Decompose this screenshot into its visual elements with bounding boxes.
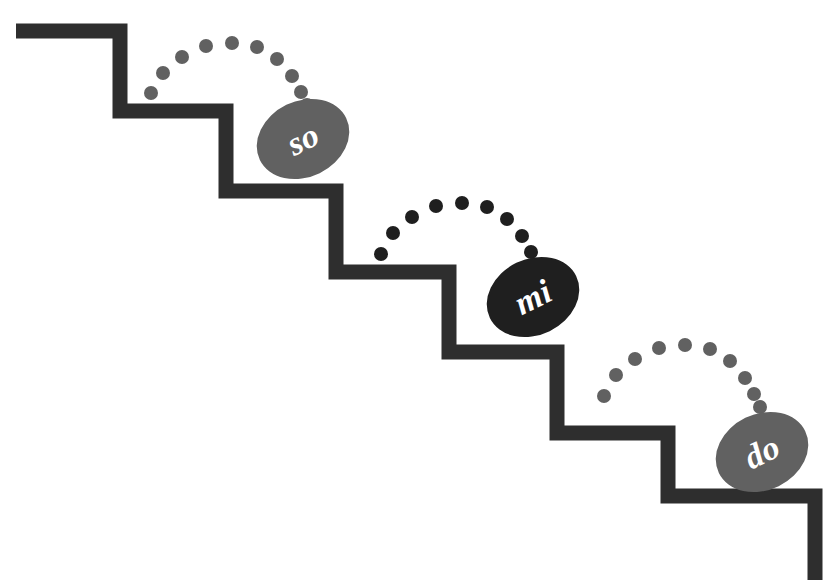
arc-dot <box>703 342 717 356</box>
arc-dot <box>285 69 299 83</box>
arc-dot <box>480 200 494 214</box>
descending-steps-diagram: somido <box>0 0 829 583</box>
arc-dot <box>678 338 692 352</box>
arc-dot <box>455 196 469 210</box>
arc-dot <box>723 354 737 368</box>
arc-dot <box>199 39 213 53</box>
arc-dot <box>524 245 538 259</box>
arc-dot <box>405 210 419 224</box>
arc-dot <box>175 50 189 64</box>
arc-dot <box>628 352 642 366</box>
arc-dot <box>747 387 761 401</box>
arc-dot <box>609 368 623 382</box>
arc-dot <box>386 226 400 240</box>
arc-dot <box>515 229 529 243</box>
arc-dot <box>225 36 239 50</box>
arc-dot <box>144 86 158 100</box>
arc-dot <box>156 66 170 80</box>
arc-dot <box>652 341 666 355</box>
arc-dot <box>738 371 752 385</box>
arc-dot <box>753 400 767 414</box>
arc-dot <box>374 247 388 261</box>
arc-dot <box>597 389 611 403</box>
diagram-canvas: somido <box>0 0 829 583</box>
arc-dot <box>429 199 443 213</box>
arc-dot <box>294 85 308 99</box>
arc-dot <box>500 212 514 226</box>
arc-dot <box>270 52 284 66</box>
arc-dot <box>250 40 264 54</box>
